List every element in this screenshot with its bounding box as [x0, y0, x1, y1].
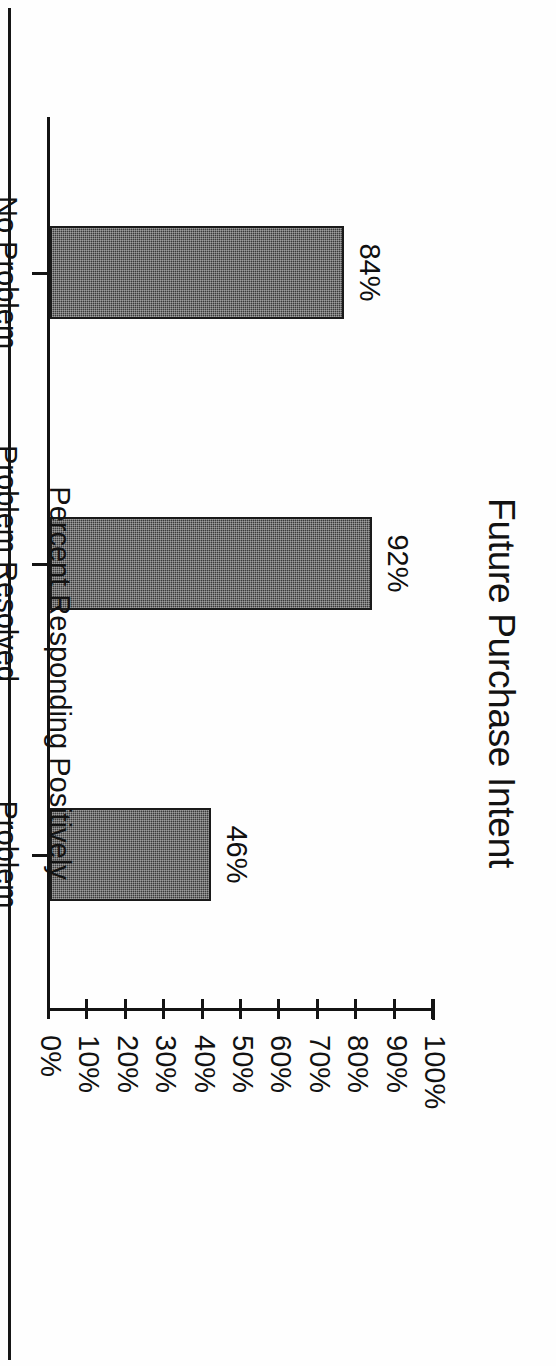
category-label: Problem Unresolved: [0, 778, 22, 932]
bar-value-label: 92%: [381, 534, 414, 592]
value-tick: [239, 999, 242, 1019]
value-tick: [85, 999, 88, 1019]
value-tick-label: 90%: [379, 1035, 412, 1093]
value-axis-line: [50, 1008, 434, 1011]
value-tick: [431, 999, 434, 1019]
value-tick-label: 80%: [341, 1035, 374, 1093]
value-tick-label: 40%: [187, 1035, 220, 1093]
bar: [50, 226, 344, 319]
value-tick: [354, 999, 357, 1019]
value-tick-label: 100%: [418, 1035, 451, 1109]
bar-value-label: 46%: [220, 825, 253, 883]
category-label: Problem Resolved Satisfactorily: [0, 445, 22, 682]
value-tick-label: 10%: [72, 1035, 105, 1093]
chart-page: Future Purchase Intent 0%10%20%30%40%50%…: [0, 0, 556, 1366]
value-tick-label: 70%: [302, 1035, 335, 1093]
bar-value-label: 84%: [353, 243, 386, 301]
value-tick: [124, 999, 127, 1019]
value-tick-label: 30%: [149, 1035, 182, 1093]
value-tick-label: 20%: [110, 1035, 143, 1093]
bar: [50, 517, 372, 610]
plot-area: 0%10%20%30%40%50%60%70%80%90%100% 84%92%…: [50, 135, 400, 1008]
value-tick: [162, 999, 165, 1019]
value-tick: [277, 999, 280, 1019]
value-tick-label: 50%: [226, 1035, 259, 1093]
value-tick: [316, 999, 319, 1019]
chart-stage: Future Purchase Intent 0%10%20%30%40%50%…: [28, 38, 528, 1328]
category-label: No Problem: [0, 196, 22, 349]
value-tick: [393, 999, 396, 1019]
value-axis-title: Percent Responding Positively: [43, 38, 76, 1328]
value-tick-label: 60%: [264, 1035, 297, 1093]
value-tick: [201, 999, 204, 1019]
chart-title: Future Purchase Intent: [480, 38, 522, 1328]
